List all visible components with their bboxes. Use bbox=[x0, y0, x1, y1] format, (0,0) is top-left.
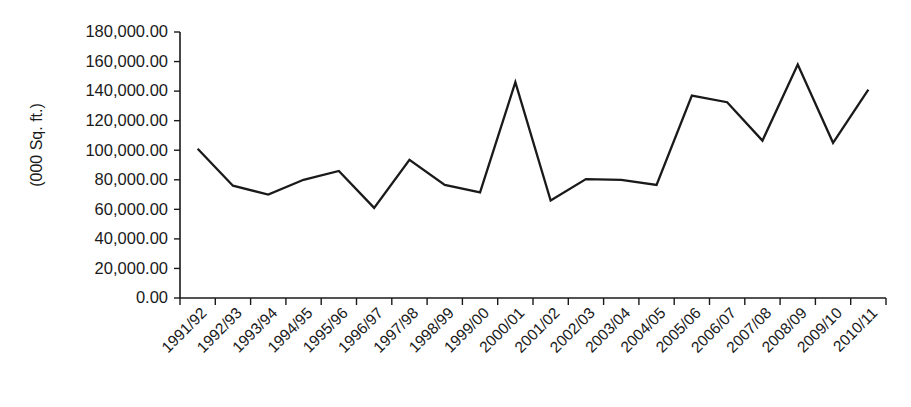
data-series-line bbox=[198, 65, 869, 208]
y-axis-tick-label: 0.00 bbox=[136, 288, 168, 306]
y-axis-tick-label: 140,000.00 bbox=[85, 81, 168, 99]
y-axis-tick-label: 20,000.00 bbox=[95, 259, 168, 277]
y-axis-title: (000 Sq. ft.) bbox=[28, 103, 45, 187]
y-axis-tick-label: 40,000.00 bbox=[95, 229, 168, 247]
x-axis-tick-marks bbox=[180, 298, 886, 305]
x-axis-tick-labels: 1991/921992/931993/941994/951995/961996/… bbox=[158, 304, 880, 356]
y-axis-tick-label: 100,000.00 bbox=[85, 141, 168, 159]
y-axis-tick-label: 60,000.00 bbox=[95, 200, 168, 218]
chart-page: 0.0020,000.0040,000.0060,000.0080,000.00… bbox=[0, 0, 911, 407]
y-axis-tick-label: 80,000.00 bbox=[95, 170, 168, 188]
y-axis-tick-marks bbox=[174, 32, 180, 298]
y-axis-tick-labels: 0.0020,000.0040,000.0060,000.0080,000.00… bbox=[85, 22, 168, 306]
y-axis-tick-label: 160,000.00 bbox=[85, 52, 168, 70]
line-chart: 0.0020,000.0040,000.0060,000.0080,000.00… bbox=[0, 0, 911, 407]
y-axis-tick-label: 180,000.00 bbox=[85, 22, 168, 40]
y-axis-tick-label: 120,000.00 bbox=[85, 111, 168, 129]
